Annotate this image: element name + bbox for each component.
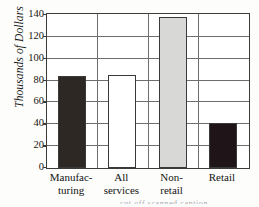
bar-2: [159, 17, 187, 168]
y-tick-label-80: 80: [14, 73, 44, 84]
y-tick-label-120: 120: [14, 29, 44, 40]
y-tick-label-60: 60: [14, 95, 44, 106]
x-category-line: Retail: [197, 171, 247, 184]
y-tick-label-100: 100: [14, 51, 44, 62]
x-category-line: All: [96, 171, 146, 184]
y-tick-mark-0: [43, 167, 47, 168]
x-category-label-0: Manufac-turing: [46, 171, 96, 197]
x-category-line: Manufac-: [46, 171, 96, 184]
category-divider-2: [148, 14, 149, 168]
x-category-line: services: [96, 184, 146, 197]
y-tick-mark-80: [43, 80, 47, 81]
y-tick-mark-40: [43, 123, 47, 124]
x-category-line: turing: [46, 184, 96, 197]
scan-artifact-line: cut off scanned caption: [120, 200, 259, 204]
y-tick-mark-20: [43, 145, 47, 146]
y-tick-label-140: 140: [14, 8, 44, 19]
plot-inner: [47, 14, 249, 168]
x-category-line: retail: [147, 184, 197, 197]
bar-1: [108, 75, 136, 168]
x-category-line: Non-: [147, 171, 197, 184]
bar-chart-figure: Thousands of Dollars 020406080100120140 …: [0, 0, 259, 207]
y-tick-mark-120: [43, 36, 47, 37]
y-tick-label-0: 0: [14, 161, 44, 172]
scan-artifact-text: cut off scanned caption: [120, 200, 259, 204]
category-divider-3: [198, 14, 199, 168]
x-category-label-1: Allservices: [96, 171, 146, 197]
x-category-label-2: Non-retail: [147, 171, 197, 197]
y-tick-label-20: 20: [14, 139, 44, 150]
y-tick-label-40: 40: [14, 117, 44, 128]
x-category-label-3: Retail: [197, 171, 247, 184]
plot-area: [46, 13, 250, 169]
bar-0: [58, 76, 86, 168]
y-axis-tick-labels: 020406080100120140: [14, 8, 44, 168]
category-divider-1: [97, 14, 98, 168]
x-axis-category-labels: Manufac-turingAllservicesNon-retailRetai…: [46, 171, 250, 201]
y-tick-mark-140: [43, 14, 47, 15]
y-tick-mark-60: [43, 101, 47, 102]
bar-3: [209, 123, 237, 168]
y-tick-mark-100: [43, 58, 47, 59]
